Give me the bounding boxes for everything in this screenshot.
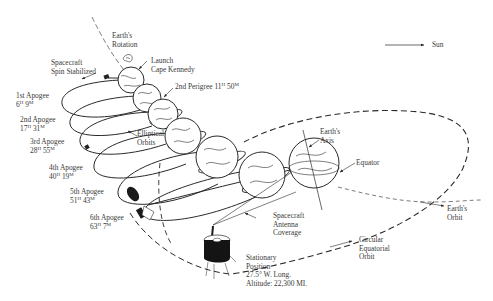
label-circular-equatorial-orbit: Circular Equatorial Orbit: [359, 236, 390, 262]
orbit-diagram: Sun Earth's Rotation Launch Cape Kennedy…: [0, 0, 493, 301]
spacecraft-icon-apogee: [124, 185, 154, 220]
earth-globe-6: [239, 152, 285, 198]
earth-globe-5: [196, 136, 238, 178]
earth-globe-4: [165, 118, 201, 154]
label-spin-stabilized: Spacecraft Spin Stabilized: [51, 59, 96, 76]
label-1st-apogee: 1st Apogee 6H 9M: [16, 92, 49, 109]
label-5th-apogee: 5th Apogee 51H 43M: [70, 188, 104, 205]
label-launch: Launch Cape Kennedy: [151, 57, 195, 74]
spacecraft-icon-small-1: [103, 74, 109, 79]
label-equator: Equator: [356, 159, 379, 168]
equator-pointer: [340, 163, 355, 172]
label-earths-orbit: Earth's Orbit: [447, 205, 467, 222]
label-3rd-apogee: 3rd Apogee 28H 55M: [30, 138, 64, 155]
label-antenna-coverage: Spacecraft Antenna Coverage: [273, 212, 304, 238]
perigee-pointer: [164, 88, 173, 97]
label-2nd-perigee: 2nd Perigree 11H 50M: [175, 83, 239, 92]
label-stationary-position: Stationary Position 27.5° W. Long. Altit…: [246, 254, 307, 288]
label-elliptical-orbits: Elliptical Orbits: [137, 130, 164, 147]
label-4th-apogee: 4th Apogee 40H 19M: [49, 164, 83, 181]
earth-globe-7: [289, 138, 339, 188]
rotation-cloud-icon: [123, 55, 132, 62]
label-6th-apogee: 6th Apogee 63H 7M: [90, 214, 124, 231]
stationary-satellite-icon: [204, 226, 236, 279]
label-sun: Sun: [432, 41, 444, 50]
circular-orbit-pointer: [330, 241, 352, 247]
launch-pointer: [139, 61, 147, 69]
label-2nd-apogee: 2nd Apogee 17H 31M: [20, 116, 56, 133]
spacecraft-icon-small-2: [84, 144, 89, 149]
label-earths-rotation: Earth's Rotation: [112, 32, 137, 49]
label-earths-axis: Earth's Axis: [320, 128, 340, 145]
